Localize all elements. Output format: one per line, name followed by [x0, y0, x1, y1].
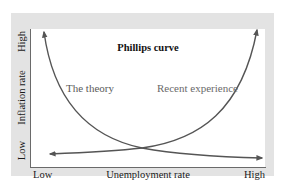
x-axis-title: Unemployment rate: [98, 169, 198, 180]
x-axis-low-label: Low: [33, 169, 52, 180]
y-axis-title: Inflation rate: [16, 63, 27, 133]
x-axis-high-label: High: [244, 169, 265, 180]
recent-experience-label: Recent experience: [157, 82, 238, 94]
y-axis-low-label: Low: [16, 139, 27, 163]
theory-label: The theory: [66, 82, 114, 94]
y-axis-high-label: High: [16, 28, 27, 56]
chart-title: Phillips curve: [100, 42, 196, 53]
curves-layer: [0, 0, 290, 192]
